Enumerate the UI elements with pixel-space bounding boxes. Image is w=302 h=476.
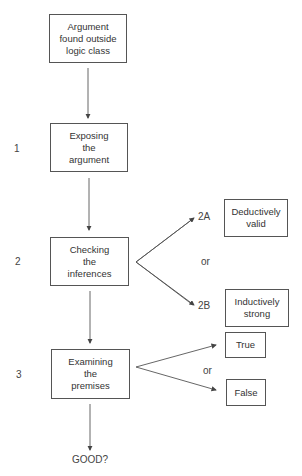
start-box: Argument found outside logic class bbox=[49, 14, 127, 63]
false-box: False bbox=[226, 379, 266, 406]
step-number: 3 bbox=[16, 369, 22, 380]
start-line: found outside bbox=[59, 33, 116, 45]
step-box-exposing: Exposing the argument bbox=[50, 123, 128, 172]
step-line: premises bbox=[68, 380, 112, 392]
branch-line: valid bbox=[231, 218, 280, 230]
branch-line: False bbox=[234, 387, 257, 399]
step-line: the bbox=[68, 256, 112, 268]
step-line: inferences bbox=[68, 268, 112, 280]
step-box-examining: Examining the premises bbox=[51, 349, 130, 399]
step-box-checking: Checking the inferences bbox=[50, 237, 129, 286]
step-number: 2 bbox=[15, 256, 21, 267]
step-number: 1 bbox=[14, 143, 20, 154]
step-line: Checking bbox=[68, 244, 112, 256]
step-line: Exposing bbox=[69, 130, 109, 142]
inference-or: or bbox=[201, 256, 210, 267]
branch-label-2b: 2B bbox=[198, 300, 210, 311]
step-line: the bbox=[68, 368, 112, 380]
branch-line: Inductively bbox=[235, 296, 280, 308]
deductively-valid-box: Deductively valid bbox=[224, 199, 288, 237]
branch-line: Deductively bbox=[231, 206, 280, 218]
step-line: Examining bbox=[68, 356, 112, 368]
premise-or: or bbox=[203, 365, 212, 376]
end-label: GOOD? bbox=[72, 454, 108, 465]
inductively-strong-box: Inductively strong bbox=[225, 289, 289, 327]
start-line: logic class bbox=[59, 45, 116, 57]
true-box: True bbox=[225, 332, 266, 358]
step-line: the bbox=[69, 142, 109, 154]
branch-line: True bbox=[236, 339, 255, 351]
branch-line: strong bbox=[235, 308, 280, 320]
start-line: Argument bbox=[59, 21, 116, 33]
step-line: argument bbox=[69, 154, 109, 166]
branch-label-2a: 2A bbox=[198, 211, 210, 222]
